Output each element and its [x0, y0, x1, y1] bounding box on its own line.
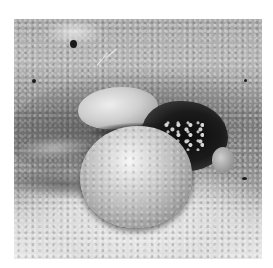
- dark-spot: [244, 79, 247, 82]
- dark-spot: [70, 40, 77, 48]
- spherical-mass: [80, 126, 192, 228]
- sphere-surface-texture: [80, 126, 192, 228]
- dark-spot: [242, 177, 247, 180]
- right-small-nodule: [212, 147, 234, 173]
- dark-spot: [32, 79, 36, 83]
- clinical-photo: [14, 19, 262, 259]
- image-canvas: [0, 0, 273, 268]
